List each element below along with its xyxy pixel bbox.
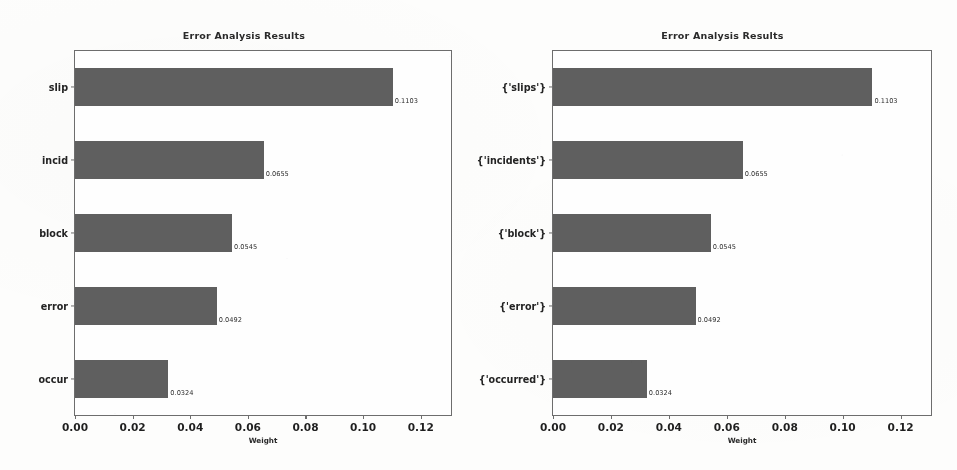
bar-left-4 <box>75 360 168 398</box>
x-tick-label-right-4: 0.08 <box>772 421 798 433</box>
x-tick-label-right-1: 0.02 <box>598 421 624 433</box>
bar-value-label-right-4: 0.0324 <box>649 389 672 397</box>
chart-panel-right: Error Analysis Results Weight 0.1103{'sl… <box>478 0 957 470</box>
y-tick-label-right-3: {'error'} <box>499 300 553 311</box>
bar-left-3 <box>75 287 217 325</box>
y-tick-label-right-4: {'occurred'} <box>479 373 553 384</box>
bar-value-label-left-3: 0.0492 <box>219 316 242 324</box>
y-tick-label-right-2: {'block'} <box>498 228 553 239</box>
bar-value-label-left-2: 0.0545 <box>234 243 257 251</box>
x-tick-mark-right-4 <box>785 415 786 419</box>
x-tick-label-left-3: 0.06 <box>235 421 261 433</box>
x-tick-mark-right-2 <box>669 415 670 419</box>
bar-value-label-left-0: 0.1103 <box>395 97 418 105</box>
plot-area-right: Weight 0.1103{'slips'}0.0655{'incidents'… <box>552 50 932 416</box>
bar-right-3 <box>553 287 696 325</box>
x-tick-mark-right-5 <box>843 415 844 419</box>
y-tick-label-right-0: {'slips'} <box>502 82 553 93</box>
x-tick-mark-left-0 <box>75 415 76 419</box>
bar-left-0 <box>75 68 393 106</box>
bar-right-0 <box>553 68 872 106</box>
bar-right-4 <box>553 360 647 398</box>
y-tick-label-left-1: incid <box>42 155 75 166</box>
document-page: Error Analysis Results Weight 0.1103slip… <box>0 0 957 470</box>
x-tick-label-right-6: 0.12 <box>888 421 914 433</box>
x-tick-mark-right-6 <box>901 415 902 419</box>
x-tick-mark-left-2 <box>190 415 191 419</box>
x-axis-label-right: Weight <box>553 436 931 445</box>
bar-left-2 <box>75 214 232 252</box>
x-axis-label-left: Weight <box>75 436 451 445</box>
bar-value-label-right-0: 0.1103 <box>874 97 897 105</box>
bar-value-label-right-1: 0.0655 <box>745 170 768 178</box>
x-tick-mark-left-3 <box>248 415 249 419</box>
x-tick-label-left-5: 0.10 <box>350 421 376 433</box>
y-tick-label-left-2: block <box>39 228 75 239</box>
x-tick-label-right-5: 0.10 <box>830 421 856 433</box>
x-tick-mark-right-1 <box>611 415 612 419</box>
plot-area-left: Weight 0.1103slip0.0655incid0.0545block0… <box>74 50 452 416</box>
x-tick-label-left-0: 0.00 <box>62 421 88 433</box>
x-tick-label-left-1: 0.02 <box>120 421 146 433</box>
x-tick-mark-right-3 <box>727 415 728 419</box>
chart-title-left: Error Analysis Results <box>0 30 478 41</box>
y-tick-label-left-3: error <box>41 300 75 311</box>
y-tick-label-left-4: occur <box>38 373 75 384</box>
x-tick-label-left-2: 0.04 <box>177 421 203 433</box>
bar-left-1 <box>75 141 264 179</box>
bar-right-1 <box>553 141 743 179</box>
x-tick-label-right-3: 0.06 <box>714 421 740 433</box>
y-tick-label-right-1: {'incidents'} <box>477 155 553 166</box>
x-tick-mark-left-4 <box>305 415 306 419</box>
bar-value-label-right-2: 0.0545 <box>713 243 736 251</box>
bar-value-label-left-4: 0.0324 <box>170 389 193 397</box>
chart-panel-left: Error Analysis Results Weight 0.1103slip… <box>0 0 478 470</box>
chart-title-right: Error Analysis Results <box>478 30 957 41</box>
y-tick-label-left-0: slip <box>49 82 75 93</box>
x-tick-label-left-6: 0.12 <box>408 421 434 433</box>
bar-value-label-left-1: 0.0655 <box>266 170 289 178</box>
x-tick-mark-left-1 <box>133 415 134 419</box>
bar-value-label-right-3: 0.0492 <box>698 316 721 324</box>
x-tick-mark-left-6 <box>421 415 422 419</box>
x-tick-label-right-2: 0.04 <box>656 421 682 433</box>
x-tick-mark-right-0 <box>553 415 554 419</box>
x-tick-label-right-0: 0.00 <box>540 421 566 433</box>
bar-right-2 <box>553 214 711 252</box>
x-tick-mark-left-5 <box>363 415 364 419</box>
x-tick-label-left-4: 0.08 <box>292 421 318 433</box>
